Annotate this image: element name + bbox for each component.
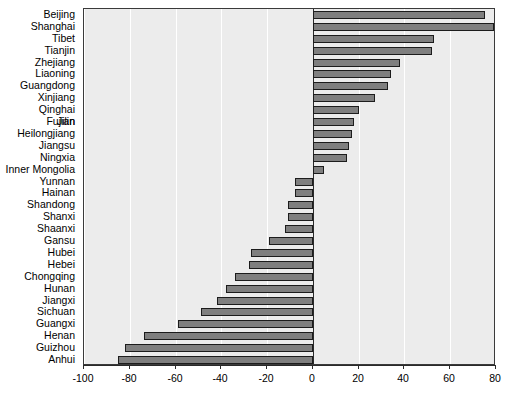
bar-anhui [118,356,313,364]
bar-hainan [295,189,313,197]
bar-hunan [226,285,313,293]
x-tick-label-0: 0 [292,372,332,384]
gridline-x-60 [450,9,451,364]
bar-shandong [288,201,313,209]
x-tick-label-60: 60 [429,372,469,384]
x-tick-label--20: -20 [246,372,286,384]
bar-jilin [313,118,354,126]
bar-guizhou [125,344,313,352]
category-label-anhui: Anhui [48,351,75,367]
x-axis-line [83,365,495,366]
bar-heilongjiang [313,130,352,138]
x-tick-label-40: 40 [383,372,423,384]
gridline-x--80 [130,9,131,364]
bar-liaoning [313,70,391,78]
x-tick--80 [129,365,130,369]
bar-hubei [251,249,313,257]
x-tick-0 [312,365,313,369]
bar-zhejiang [313,59,400,67]
x-tick-80 [495,365,496,369]
bar-shaanxi [285,225,312,233]
category-axis-labels: BeijingShanghaiTibetTianjinZhejiangLiaon… [0,8,79,365]
x-tick-label-80: 80 [475,372,506,384]
x-tick-40 [403,365,404,369]
x-tick-label--100: -100 [63,372,103,384]
x-tick-label--60: -60 [155,372,195,384]
gridline-x-40 [404,9,405,364]
bar-hebei [249,261,313,269]
bar-shanghai [313,23,494,31]
bar-tianjin [313,47,432,55]
bar-xinjiang [313,94,375,102]
bar-guangdong [313,82,389,90]
plot-area [83,8,495,365]
bar-inner-mongolia [313,166,324,174]
bar-beijing [313,11,485,19]
gridline-x--60 [176,9,177,364]
x-tick--40 [220,365,221,369]
x-tick-label-20: 20 [338,372,378,384]
bar-guangxi [178,320,313,328]
bar-chongqing [235,273,313,281]
bar-henan [144,332,313,340]
x-tick-label--80: -80 [109,372,149,384]
bar-tibet [313,35,434,43]
x-tick--60 [175,365,176,369]
x-tick--20 [266,365,267,369]
x-tick-20 [358,365,359,369]
bar-gansu [269,237,312,245]
x-tick-label--40: -40 [200,372,240,384]
bar-jiangxi [217,297,313,305]
bar-yunnan [295,178,313,186]
x-tick--100 [83,365,84,369]
bar-sichuan [201,308,313,316]
bar-shanxi [288,213,313,221]
x-tick-60 [449,365,450,369]
gridline-x--100 [84,9,85,364]
bar-qinghai [313,106,359,114]
bar-ningxia [313,154,347,162]
bar-jiangsu [313,142,350,150]
